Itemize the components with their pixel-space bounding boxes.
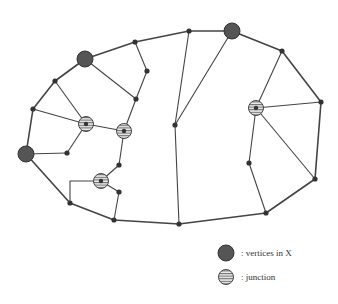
graph-node [246, 160, 251, 165]
junction-center-dot [99, 179, 103, 183]
edge [256, 108, 315, 179]
junction-center-dot [84, 122, 88, 126]
edge [135, 42, 147, 71]
edge [114, 192, 119, 220]
graph-node [52, 78, 57, 83]
edge [249, 163, 266, 213]
edge [33, 109, 86, 124]
edges [26, 31, 321, 224]
graph-node [144, 68, 149, 73]
x-vertex-node [224, 23, 240, 39]
graph-node [312, 176, 317, 181]
legend: : vertices in X : junction [218, 245, 292, 285]
graph-node [116, 162, 121, 167]
graph-node [279, 48, 284, 53]
legend-item-junction: : junction [219, 270, 276, 285]
edge [175, 31, 189, 125]
junction-center-dot [254, 106, 258, 110]
edge [256, 51, 282, 108]
graph-node [111, 217, 116, 222]
junction-legend-icon [219, 270, 234, 285]
junction-center-dot [122, 129, 126, 133]
edge [249, 108, 256, 163]
graph-node [67, 200, 72, 205]
graph-node [30, 106, 35, 111]
edge [175, 31, 232, 125]
graph-node [133, 96, 138, 101]
graph-node [64, 150, 69, 155]
graph-node [132, 39, 137, 44]
legend-label-junction: : junction [241, 272, 276, 282]
graph-diagram: : vertices in X : junction [0, 0, 338, 304]
x-vertex-legend-icon [218, 245, 234, 261]
legend-label-x-vertex: : vertices in X [241, 248, 292, 258]
x-vertex-node [18, 146, 34, 162]
legend-item-x-vertex: : vertices in X [218, 245, 292, 261]
graph-node [186, 28, 191, 33]
graph-node [176, 221, 181, 226]
edge [85, 59, 136, 99]
edge [136, 71, 147, 99]
graph-node [172, 122, 177, 127]
edge [175, 125, 179, 224]
graph-node [116, 189, 121, 194]
edge [256, 102, 321, 108]
x-vertex-node [77, 51, 93, 67]
graph-node [318, 99, 323, 104]
graph-node [263, 210, 268, 215]
